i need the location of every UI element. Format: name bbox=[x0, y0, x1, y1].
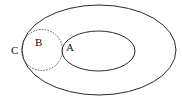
label-b: B bbox=[35, 36, 42, 48]
label-a: A bbox=[66, 41, 74, 53]
outer-ellipse bbox=[22, 5, 176, 95]
label-c: C bbox=[11, 44, 18, 56]
set-diagram: C B A bbox=[0, 0, 182, 101]
